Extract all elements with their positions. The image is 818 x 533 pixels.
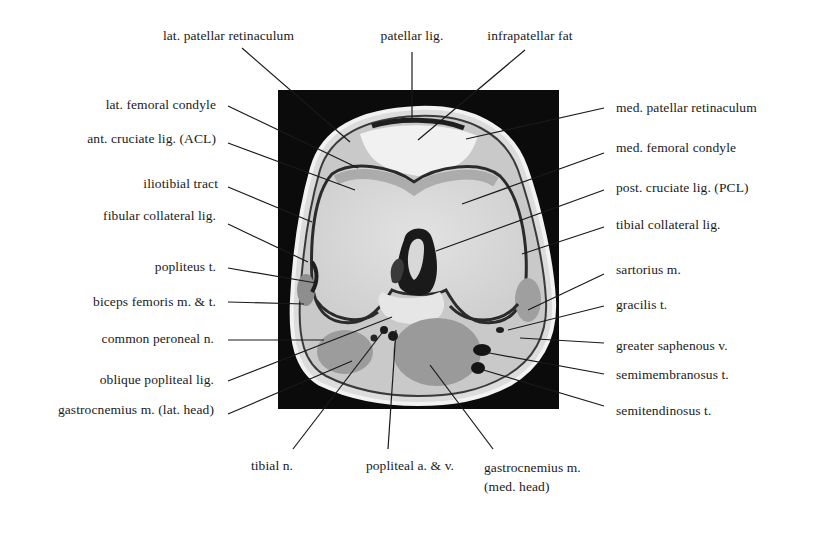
label-iliotibial-tract: iliotibial tract [143,176,218,192]
label-biceps-femoris: biceps femoris m. & t. [93,294,216,310]
label-gracilis-t: gracilis t. [616,297,667,313]
label-fibular-collateral-lig: fibular collateral lig. [103,208,216,224]
label-semimembranosus-t: semimembranosus t. [616,367,729,383]
label-gastrocnemius-med: gastrocnemius m.(med. head) [484,458,581,496]
label-greater-saphenous-v: greater saphenous v. [616,338,728,354]
label-med-femoral-condyle: med. femoral condyle [616,140,736,156]
label-oblique-popliteal-lig: oblique popliteal lig. [100,372,214,388]
label-acl: ant. cruciate lig. (ACL) [87,131,216,147]
label-tibial-collateral-lig: tibial collateral lig. [616,217,721,233]
label-infrapatellar-fat: infrapatellar fat [487,28,572,44]
label-med-patellar-retinaculum: med. patellar retinaculum [616,100,757,116]
label-line-1: gastrocnemius m. [484,460,581,475]
label-lat-patellar-retinaculum: lat. patellar retinaculum [163,28,294,44]
label-tibial-n: tibial n. [251,458,293,474]
label-pcl: post. cruciate lig. (PCL) [616,180,749,196]
label-popliteus-t: popliteus t. [155,259,216,275]
label-lat-femoral-condyle: lat. femoral condyle [106,97,216,113]
mri-panel [0,0,818,533]
label-popliteal-av: popliteal a. & v. [366,458,454,474]
label-patellar-lig: patellar lig. [381,28,444,44]
label-line-2: (med. head) [484,479,550,494]
knee-mri-figure: lat. patellar retinaculumpatellar lig.in… [0,0,818,533]
label-semitendinosus-t: semitendinosus t. [616,403,711,419]
label-common-peroneal-n: common peroneal n. [102,331,214,347]
label-sartorius-m: sartorius m. [616,262,681,278]
label-gastrocnemius-lat: gastrocnemius m. (lat. head) [58,402,214,418]
